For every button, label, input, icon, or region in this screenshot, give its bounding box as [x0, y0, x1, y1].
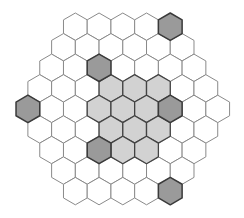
hex-cell-r4-c0	[16, 95, 40, 122]
hex-cell-r6-c3	[111, 136, 135, 163]
hex-cell-r6-c4	[135, 136, 159, 163]
hex-cell-r8-c4	[158, 177, 182, 204]
hex-cell-r4-c6	[158, 95, 182, 122]
hex-cell-r6-c2	[87, 136, 111, 163]
hex-cell-r2-c2	[87, 54, 111, 81]
hex-board	[0, 0, 244, 218]
hex-cell-r0-c4	[158, 13, 182, 40]
